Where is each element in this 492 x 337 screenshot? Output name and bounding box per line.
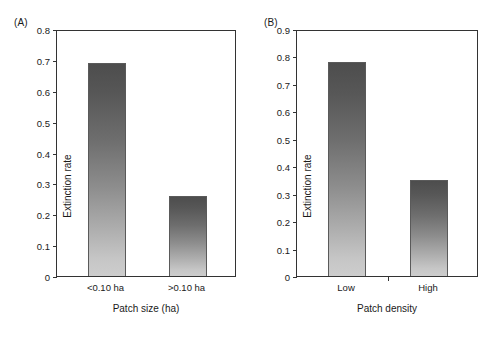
bar-gradient-fill	[89, 64, 125, 276]
y-tick-label: 0.2	[37, 210, 50, 221]
panel-a-plot-area: Extinction rate 00.10.20.30.40.50.60.70.…	[56, 30, 236, 277]
tick-mark	[293, 140, 297, 141]
x-category-label: Low	[306, 282, 386, 293]
panel-b-x-center-tick	[388, 276, 389, 281]
tick-mark	[293, 250, 297, 251]
tick-mark	[53, 61, 57, 62]
tick-mark	[293, 222, 297, 223]
tick-mark	[53, 92, 57, 93]
y-tick-label: 0.7	[37, 56, 50, 67]
y-tick-label: 0.8	[277, 52, 290, 63]
y-tick-label: 0	[45, 272, 50, 283]
tick-mark	[53, 154, 57, 155]
panel-a-tag: (A)	[14, 18, 28, 28]
x-category-label: <0.10 ha	[66, 282, 146, 293]
panel-b-y-axis-label: Extinction rate	[303, 154, 313, 217]
bar-low	[328, 62, 366, 276]
bar-0-10-ha	[169, 196, 207, 276]
figure-two-panel-bar-charts: (A) Extinction rate 00.10.20.30.40.50.60…	[0, 0, 492, 337]
y-tick-label: 0.1	[277, 245, 290, 256]
y-tick-label: 0.3	[37, 179, 50, 190]
tick-mark	[293, 57, 297, 58]
tick-mark	[293, 167, 297, 168]
tick-mark	[53, 246, 57, 247]
panel-a-x-axis-label: Patch size (ha)	[56, 303, 236, 315]
bar-gradient-fill	[411, 181, 447, 276]
tick-mark	[293, 30, 297, 31]
bar-0-10-ha	[88, 63, 126, 276]
y-tick-label: 0.3	[277, 190, 290, 201]
y-tick-label: 0	[285, 272, 290, 283]
y-tick-label: 0.5	[277, 135, 290, 146]
panel-b-tag: (B)	[264, 18, 278, 28]
panel-a-y-axis-label: Extinction rate	[63, 154, 73, 217]
panel-b-plot-area: Extinction rate 00.10.20.30.40.50.60.70.…	[296, 30, 478, 277]
y-tick-label: 0.1	[37, 241, 50, 252]
tick-mark	[53, 215, 57, 216]
y-tick-label: 0.4	[37, 149, 50, 160]
x-category-label: >0.10 ha	[147, 282, 227, 293]
tick-mark	[53, 184, 57, 185]
x-category-label: High	[388, 282, 468, 293]
y-tick-label: 0.4	[277, 162, 290, 173]
bar-high	[410, 180, 448, 276]
y-tick-label: 0.9	[277, 25, 290, 36]
panel-b-x-axis-label: Patch density	[296, 303, 478, 315]
tick-mark	[293, 112, 297, 113]
bar-gradient-fill	[170, 197, 206, 276]
y-tick-label: 0.7	[277, 80, 290, 91]
tick-mark	[53, 277, 57, 278]
tick-mark	[293, 195, 297, 196]
panel-a: (A) Extinction rate 00.10.20.30.40.50.60…	[0, 0, 246, 337]
tick-mark	[53, 123, 57, 124]
panel-b: (B) Extinction rate 00.10.20.30.40.50.60…	[246, 0, 492, 337]
y-tick-label: 0.6	[277, 107, 290, 118]
tick-mark	[53, 30, 57, 31]
y-tick-label: 0.8	[37, 25, 50, 36]
y-tick-label: 0.5	[37, 118, 50, 129]
y-tick-label: 0.6	[37, 87, 50, 98]
y-tick-label: 0.2	[277, 217, 290, 228]
tick-mark	[293, 85, 297, 86]
tick-mark	[293, 277, 297, 278]
bar-gradient-fill	[329, 63, 365, 276]
